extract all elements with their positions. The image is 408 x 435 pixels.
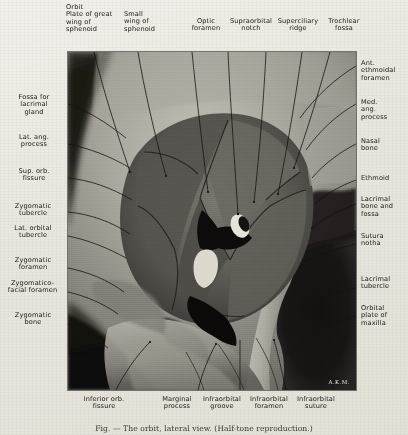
orbit-photograph: A.K.M. — [68, 52, 356, 390]
label-sup-orb-fissure: Sup. orb. fissure — [6, 168, 62, 183]
label-lat-orbital-tubercle: Lat. orbital tubercle — [4, 225, 62, 240]
label-zygomatic-bone: Zygomatic bone — [4, 312, 62, 327]
label-inferior-orb-fissure: Inferior orb. fissure — [74, 396, 134, 411]
label-zygomaticofacial-foramen: Zygomatico- facial foramen — [1, 280, 64, 295]
label-small-wing-sphenoid: Small wing of sphenoid — [124, 11, 168, 33]
label-med-ang-process: Med. ang. process — [361, 99, 408, 121]
label-fossa-for-lacrimal-gland: Fossa for lacrimal gland — [6, 94, 62, 116]
label-marginal-process: Marginal process — [155, 396, 199, 411]
artist-signature: A.K.M. — [329, 379, 351, 385]
label-infraorbital-foramen: Infraorbital foramen — [245, 396, 293, 411]
label-ethmoid: Ethmoid — [361, 175, 408, 182]
label-superciliary-ridge: Superciliary ridge — [274, 18, 322, 33]
orbit-photo-svg — [68, 52, 356, 390]
label-ant-ethmoidal-foramen: Ant. ethmoidal foramen — [361, 60, 408, 82]
label-nasal-bone: Nasal bone — [361, 138, 408, 153]
label-optic-foramen: Optic foramen — [186, 18, 226, 33]
figure-caption: Fig. — The orbit, lateral view. (Half-to… — [0, 424, 408, 435]
label-orbital-plate-of-maxilla: Orbital plate of maxilla — [361, 305, 408, 327]
label-lacrimal-bone-and-fossa: Lacrimal bone and fossa — [361, 196, 408, 218]
label-infraorbital-suture: Infraorbital suture — [292, 396, 340, 411]
label-supraorbital-notch: Supraorbital notch — [226, 18, 276, 33]
label-lacrimal-tubercle: Lacrimal tubercle — [361, 276, 408, 291]
label-zygomatic-foramen: Zygomatic foramen — [4, 257, 62, 272]
label-lat-ang-process: Lat. ang. process — [6, 134, 62, 149]
label-infraorbital-groove: Infraorbital groove — [198, 396, 246, 411]
label-zygomatic-tubercle: Zygomatic tubercle — [4, 203, 62, 218]
label-orbit-plate-great-wing-sphenoid: Orbit Plate of great wing of sphenoid — [66, 4, 124, 34]
label-sutura-notha: Sutura notha — [361, 233, 408, 248]
label-trochlear-fossa: Trochlear fossa — [322, 18, 366, 33]
